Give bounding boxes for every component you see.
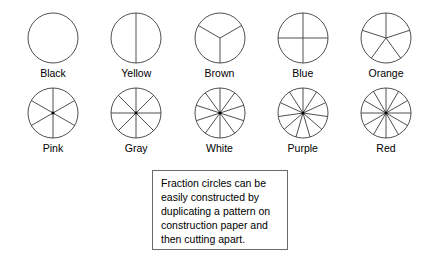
fraction-circle-yellow: Yellow: [97, 12, 175, 79]
fraction-circle-label-blue: Blue: [292, 67, 313, 79]
note-line: Fraction circles can be: [161, 176, 287, 190]
divider-line: [362, 30, 386, 38]
fraction-circles-sheet: BlackYellowBrownBlueOrange PinkGrayWhite…: [0, 0, 439, 262]
fraction-circle-label-gray: Gray: [125, 142, 148, 154]
note-line: duplicating a pattern on: [161, 204, 287, 218]
fraction-circle-label-purple: Purple: [288, 142, 318, 154]
fraction-circle-red: Red: [347, 87, 425, 154]
fraction-circle-gray: Gray: [97, 87, 175, 154]
divider-line: [386, 38, 401, 58]
fraction-circle-label-white: White: [206, 142, 233, 154]
fraction-circle-graphic-yellow: [110, 12, 162, 64]
fraction-circle-label-black: Black: [40, 67, 66, 79]
center-hub: [52, 112, 55, 115]
fraction-circle-graphic-black: [27, 12, 79, 64]
fraction-circle-row-2: PinkGrayWhitePurpleRed: [0, 87, 439, 154]
fraction-circle-blue: Blue: [264, 12, 342, 79]
fraction-circle-label-pink: Pink: [43, 142, 63, 154]
center-hub: [385, 112, 388, 115]
divider-line: [386, 30, 410, 38]
note-line: then cutting apart.: [161, 232, 287, 246]
fraction-circle-orange: Orange: [347, 12, 425, 79]
fraction-circle-brown: Brown: [181, 12, 259, 79]
center-hub: [301, 112, 304, 115]
fraction-circle-pink: Pink: [14, 87, 92, 154]
fraction-circle-graphic-brown: [194, 12, 246, 64]
fraction-circle-row-1: BlackYellowBrownBlueOrange: [0, 12, 439, 79]
divider-line: [371, 38, 386, 58]
fraction-circle-label-red: Red: [376, 142, 395, 154]
fraction-circle-graphic-red: [360, 87, 412, 139]
fraction-circle-purple: Purple: [264, 87, 342, 154]
circle-outline: [28, 13, 78, 63]
fraction-circle-label-orange: Orange: [368, 67, 403, 79]
center-hub: [135, 112, 138, 115]
fraction-circle-label-yellow: Yellow: [121, 67, 151, 79]
center-hub: [218, 112, 221, 115]
note-line: easily constructed by: [161, 190, 287, 204]
fraction-circle-white: White: [181, 87, 259, 154]
fraction-circle-graphic-blue: [277, 12, 329, 64]
fraction-circle-graphic-orange: [360, 12, 412, 64]
fraction-circle-graphic-pink: [27, 87, 79, 139]
fraction-circle-graphic-white: [194, 87, 246, 139]
fraction-circle-graphic-gray: [110, 87, 162, 139]
fraction-circle-black: Black: [14, 12, 92, 79]
note-line: construction paper and: [161, 218, 287, 232]
note-box: Fraction circles can beeasily constructe…: [152, 170, 288, 250]
divider-line: [220, 26, 242, 39]
fraction-circle-label-brown: Brown: [205, 67, 235, 79]
fraction-circle-graphic-purple: [277, 87, 329, 139]
divider-line: [198, 26, 220, 39]
